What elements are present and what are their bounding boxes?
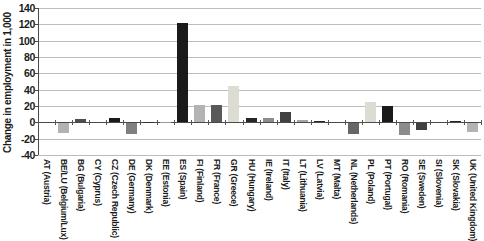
y-axis-line bbox=[38, 8, 39, 155]
x-tick-mark bbox=[191, 120, 192, 125]
x-tick-mark bbox=[464, 120, 465, 125]
y-tick-label: 60 bbox=[8, 68, 35, 78]
x-category-label: SI (Slovenia) bbox=[434, 159, 443, 207]
x-category-label: UK (United Kingdom) bbox=[468, 159, 477, 241]
x-tick-mark bbox=[396, 120, 397, 125]
y-tick-label: -40 bbox=[8, 150, 35, 160]
x-tick-mark bbox=[447, 120, 448, 125]
x-tick-mark bbox=[38, 120, 39, 125]
x-tick-mark bbox=[208, 120, 209, 125]
x-tick-mark bbox=[379, 120, 380, 125]
employment-change-bar-chart: Change in employment in 1,000 1401201008… bbox=[0, 0, 484, 241]
x-tick-mark bbox=[174, 120, 175, 125]
gridline bbox=[38, 90, 481, 91]
bar-bg bbox=[75, 119, 86, 122]
bar-fr bbox=[211, 105, 222, 122]
gridline bbox=[38, 57, 481, 58]
x-category-label: DE (Germany) bbox=[127, 159, 136, 213]
bar-be/lu bbox=[58, 123, 69, 133]
x-category-label: FR (France) bbox=[212, 159, 221, 204]
gridline bbox=[38, 8, 481, 9]
y-tick-label: 140 bbox=[8, 3, 35, 13]
x-category-label: EE (Estonia) bbox=[161, 159, 170, 207]
x-category-label: BG (Bulgaria) bbox=[76, 159, 85, 211]
x-tick-mark bbox=[243, 120, 244, 125]
bar-gr bbox=[228, 86, 239, 122]
x-category-label: IT (Italy) bbox=[281, 159, 290, 190]
bar-lt bbox=[297, 120, 308, 123]
x-tick-mark bbox=[225, 120, 226, 125]
gridline bbox=[38, 106, 481, 107]
y-axis-title: Change in employment in 1,000 bbox=[2, 12, 13, 153]
x-category-label: LT (Lithuania) bbox=[298, 159, 307, 212]
x-tick-mark bbox=[157, 120, 158, 125]
x-tick-mark bbox=[413, 120, 414, 125]
y-tick-mark bbox=[35, 155, 38, 156]
x-category-label: CZ (Czech Republic) bbox=[110, 159, 119, 238]
x-category-label: FI (Finland) bbox=[195, 159, 204, 202]
x-category-label: CY (Cyprus) bbox=[93, 159, 102, 206]
y-tick-label: 100 bbox=[8, 36, 35, 46]
x-category-label: NL (Netherlands) bbox=[349, 159, 358, 224]
x-tick-mark bbox=[140, 120, 141, 125]
bar-se bbox=[416, 123, 427, 130]
x-category-label: AT (Austria) bbox=[42, 159, 51, 205]
x-tick-mark bbox=[345, 120, 346, 125]
x-category-label: IE (Ireland) bbox=[264, 159, 273, 201]
x-tick-mark bbox=[328, 120, 329, 125]
x-tick-mark bbox=[277, 120, 278, 125]
x-tick-mark bbox=[123, 120, 124, 125]
bar-uk bbox=[467, 123, 478, 132]
x-category-label: BE/LU (Belgium/Lux) bbox=[59, 159, 68, 240]
x-category-label: ES (Spain) bbox=[178, 159, 187, 200]
y-tick-label: 40 bbox=[8, 85, 35, 95]
bar-ee bbox=[160, 122, 171, 123]
x-tick-mark bbox=[294, 120, 295, 125]
bar-ro bbox=[399, 123, 410, 134]
bar-sk bbox=[450, 121, 461, 123]
bar-de bbox=[126, 123, 137, 134]
gridline bbox=[38, 24, 481, 25]
bar-dk bbox=[143, 122, 154, 123]
gridline bbox=[38, 73, 481, 74]
x-category-label: SK (Slovakia) bbox=[451, 159, 460, 211]
x-tick-mark bbox=[430, 120, 431, 125]
bar-es bbox=[177, 23, 188, 123]
x-tick-mark bbox=[481, 120, 482, 125]
bar-pl bbox=[365, 102, 376, 122]
x-tick-mark bbox=[311, 120, 312, 125]
gridline bbox=[38, 41, 481, 42]
bar-cz bbox=[109, 118, 120, 122]
y-tick-label: 80 bbox=[8, 52, 35, 62]
y-tick-label: -20 bbox=[8, 134, 35, 144]
bar-it bbox=[280, 112, 291, 123]
gridline bbox=[38, 155, 481, 156]
x-category-label: LV (Latvia) bbox=[315, 159, 324, 200]
x-category-label: GR (Greece) bbox=[229, 159, 238, 206]
x-category-label: DK (Denmark) bbox=[144, 159, 153, 213]
y-tick-label: 0 bbox=[8, 117, 35, 127]
y-tick-label: 120 bbox=[8, 19, 35, 29]
x-tick-mark bbox=[55, 120, 56, 125]
bar-fi bbox=[194, 105, 205, 122]
x-tick-mark bbox=[72, 120, 73, 125]
gridline bbox=[38, 139, 481, 140]
x-tick-mark bbox=[362, 120, 363, 125]
x-category-label: SE (Sweden) bbox=[417, 159, 426, 208]
bar-nl bbox=[348, 123, 359, 134]
x-tick-mark bbox=[89, 120, 90, 125]
y-tick-label: 20 bbox=[8, 101, 35, 111]
x-tick-mark bbox=[106, 120, 107, 125]
bar-pt bbox=[382, 106, 393, 122]
x-category-label: PT (Portugal) bbox=[383, 159, 392, 210]
bar-hu bbox=[246, 118, 257, 122]
bar-ie bbox=[263, 118, 274, 122]
x-category-label: RO (Romania) bbox=[400, 159, 409, 213]
bar-lv bbox=[314, 121, 325, 123]
x-category-label: PL (Poland) bbox=[366, 159, 375, 204]
x-category-label: HU (Hungary) bbox=[247, 159, 256, 211]
x-category-label: MT (Malta) bbox=[332, 159, 341, 199]
x-tick-mark bbox=[260, 120, 261, 125]
